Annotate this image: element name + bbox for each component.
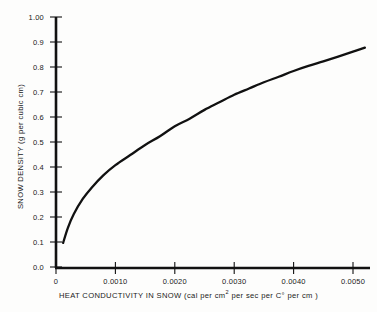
x-axis-title: HEAT CONDUCTIVITY IN SNOW (cal per cm2 p… — [0, 291, 377, 300]
x-tick-label: 0.0020 — [163, 277, 187, 286]
x-tick-label: 0 — [54, 277, 58, 286]
chart-figure: 1.00 0.9 0.8 0.7 0.6 0.5 0.4 0.3 0.2 0.1… — [0, 0, 377, 312]
axis-lines — [55, 17, 370, 268]
x-tick-label: 0.0040 — [282, 277, 306, 286]
y-axis-title: SNOW DENSITY (g per cubic cm) — [16, 32, 25, 262]
x-tick-label: 0.0030 — [222, 277, 246, 286]
x-tick-label: 0.0050 — [341, 277, 365, 286]
plot-area — [0, 0, 377, 312]
y-tick-label: 1.00 — [2, 13, 44, 22]
x-tick-label: 0.0010 — [103, 277, 127, 286]
y-tick-label: 0.0 — [2, 263, 44, 272]
x-axis-title-prefix: HEAT CONDUCTIVITY IN SNOW (cal per cm — [59, 291, 226, 300]
data-series-line — [63, 48, 365, 243]
x-axis-title-suffix: per sec per C° per cm ) — [229, 291, 318, 300]
